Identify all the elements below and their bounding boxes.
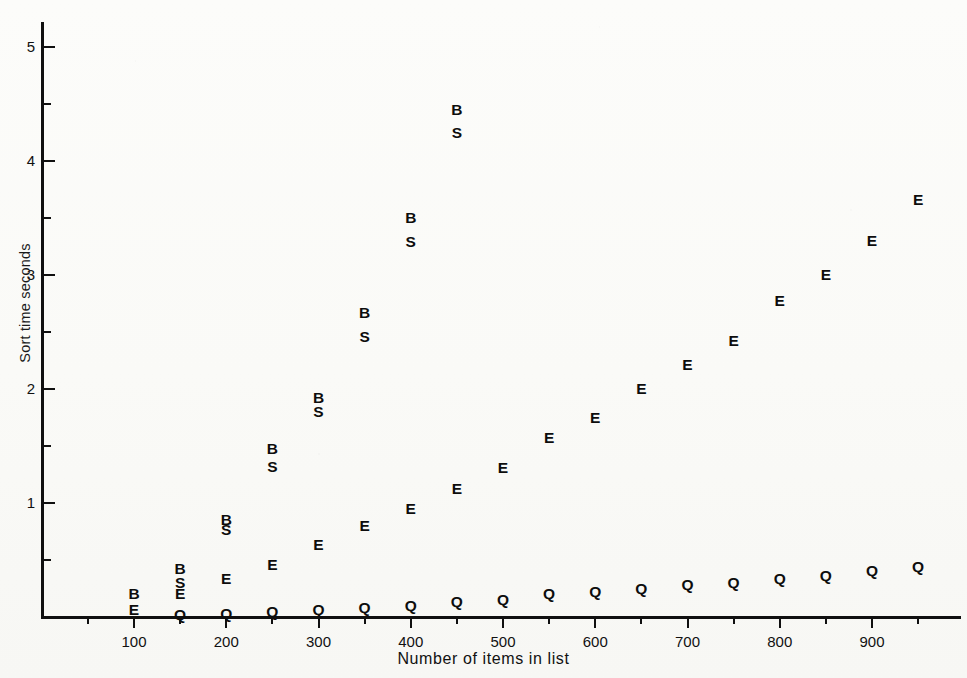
y-tick-label: 1 xyxy=(9,495,35,510)
data-point-q: Q xyxy=(589,584,601,600)
x-tick-major xyxy=(871,617,873,628)
x-tick-major xyxy=(687,617,689,628)
x-tick-label: 800 xyxy=(750,634,810,649)
data-point-q: Q xyxy=(774,572,786,588)
data-point-s: S xyxy=(313,404,323,420)
y-tick-major xyxy=(43,46,55,48)
data-point-e: E xyxy=(498,460,508,476)
data-point-e: E xyxy=(221,572,231,588)
data-point-s: S xyxy=(359,329,369,345)
x-tick-minor xyxy=(917,617,919,624)
x-tick-minor xyxy=(640,617,642,624)
y-tick-label: 2 xyxy=(9,381,35,396)
data-point-e: E xyxy=(775,293,785,309)
x-axis-title: Number of items in list xyxy=(0,650,967,668)
x-tick-label: 600 xyxy=(565,634,625,649)
data-point-e: E xyxy=(267,557,277,573)
data-point-q: Q xyxy=(912,559,924,575)
x-tick-major xyxy=(502,617,504,628)
data-point-q: Q xyxy=(266,605,278,621)
x-tick-label: 400 xyxy=(381,634,441,649)
x-tick-major xyxy=(133,617,135,628)
data-point-q: Q xyxy=(312,602,324,618)
data-point-e: E xyxy=(129,602,139,618)
x-tick-major xyxy=(594,617,596,628)
data-point-e: E xyxy=(682,357,692,373)
data-point-s: S xyxy=(406,234,416,250)
y-tick-minor xyxy=(43,445,51,447)
x-tick-major xyxy=(410,617,412,628)
data-point-e: E xyxy=(406,501,416,517)
y-tick-minor xyxy=(43,217,51,219)
x-tick-minor xyxy=(825,617,827,624)
data-point-e: E xyxy=(913,192,923,208)
data-point-q: Q xyxy=(866,564,878,580)
data-point-q: Q xyxy=(820,568,832,584)
x-tick-label: 500 xyxy=(473,634,533,649)
y-tick-label: 5 xyxy=(9,39,35,54)
data-point-q: Q xyxy=(635,581,647,597)
data-point-e: E xyxy=(544,430,554,446)
data-point-q: Q xyxy=(174,607,186,623)
x-tick-minor xyxy=(364,617,366,624)
data-point-q: Q xyxy=(681,577,693,593)
data-point-b: B xyxy=(451,102,462,118)
data-point-q: Q xyxy=(220,606,232,622)
data-point-b: B xyxy=(267,442,278,458)
data-point-e: E xyxy=(821,267,831,283)
y-tick-minor xyxy=(43,331,51,333)
data-point-e: E xyxy=(590,410,600,426)
data-point-b: B xyxy=(405,210,416,226)
data-point-e: E xyxy=(313,537,323,553)
data-point-e: E xyxy=(867,233,877,249)
data-point-e: E xyxy=(636,381,646,397)
data-point-q: Q xyxy=(728,575,740,591)
x-tick-major xyxy=(318,617,320,628)
x-tick-label: 300 xyxy=(289,634,349,649)
y-tick-minor xyxy=(43,103,51,105)
data-point-q: Q xyxy=(405,598,417,614)
x-tick-minor xyxy=(456,617,458,624)
data-point-q: Q xyxy=(543,586,555,602)
y-tick-label: 4 xyxy=(9,153,35,168)
y-tick-major xyxy=(43,160,55,162)
x-tick-label: 900 xyxy=(842,634,902,649)
data-point-e: E xyxy=(728,333,738,349)
y-axis-line xyxy=(41,22,44,618)
scatter-plot: 12345 100200300400500600700800900 BBBBBB… xyxy=(0,0,967,678)
data-point-s: S xyxy=(221,523,231,539)
x-tick-label: 200 xyxy=(196,634,256,649)
data-point-e: E xyxy=(452,482,462,498)
y-tick-major xyxy=(43,274,55,276)
data-point-q: Q xyxy=(359,600,371,616)
y-axis-title: Sort time seconds xyxy=(17,233,33,373)
y-tick-minor xyxy=(43,559,51,561)
data-point-e: E xyxy=(359,518,369,534)
data-point-b: B xyxy=(128,586,139,602)
y-tick-major xyxy=(43,388,55,390)
x-tick-minor xyxy=(733,617,735,624)
data-point-q: Q xyxy=(451,594,463,610)
x-tick-label: 700 xyxy=(658,634,718,649)
x-tick-major xyxy=(779,617,781,628)
data-point-s: S xyxy=(452,125,462,141)
data-point-b: B xyxy=(359,305,370,321)
x-tick-label: 100 xyxy=(104,634,164,649)
data-point-e: E xyxy=(175,586,185,602)
x-tick-minor xyxy=(87,617,89,624)
data-point-q: Q xyxy=(497,592,509,608)
x-tick-minor xyxy=(548,617,550,624)
y-tick-major xyxy=(43,502,55,504)
data-point-s: S xyxy=(267,459,277,475)
